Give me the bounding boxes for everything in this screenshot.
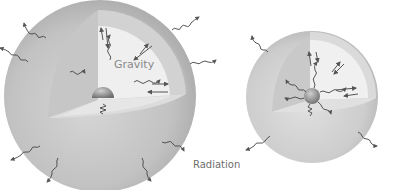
large-star <box>0 0 216 190</box>
small-star <box>246 31 378 163</box>
radiation-label: Radiation <box>193 159 240 170</box>
stellar-equilibrium-diagram: Gravity Radiation <box>0 0 393 190</box>
gravity-label: Gravity <box>114 58 154 71</box>
small-star-core <box>304 88 320 104</box>
